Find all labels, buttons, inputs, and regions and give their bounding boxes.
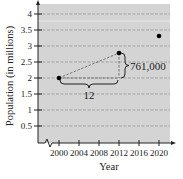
point-2000 — [57, 76, 62, 81]
svg-text:3: 3 — [28, 41, 33, 51]
x-axis-title: Year — [99, 161, 119, 172]
svg-text:2: 2 — [28, 73, 33, 83]
svg-text:0.5: 0.5 — [21, 121, 33, 131]
svg-text:2012: 2012 — [110, 148, 128, 158]
run-label: 12 — [84, 89, 95, 101]
svg-text:2016: 2016 — [130, 148, 149, 158]
svg-text:2020: 2020 — [150, 148, 169, 158]
svg-text:1: 1 — [28, 105, 33, 115]
svg-text:2000: 2000 — [50, 148, 69, 158]
svg-text:2.5: 2.5 — [21, 57, 33, 67]
y-tick-labels: 4 3.5 3 2.5 2 1.5 1 0.5 — [21, 9, 33, 131]
plot-area — [38, 4, 170, 143]
x-tick-labels: 2000 2004 2008 2012 2016 2020 — [50, 148, 169, 158]
point-2012 — [117, 51, 122, 56]
svg-text:2004: 2004 — [70, 148, 89, 158]
chart-canvas: 4 3.5 3 2.5 2 1.5 1 0.5 Population (in m… — [0, 0, 183, 179]
y-axis-title: Population (in millions) — [4, 25, 16, 126]
svg-text:1.5: 1.5 — [21, 89, 33, 99]
svg-text:4: 4 — [28, 9, 33, 19]
rise-label: 761,000 — [130, 60, 166, 72]
point-2020 — [157, 34, 162, 39]
y-axis-arrow-icon — [36, 0, 40, 5]
x-axis-arrow-icon — [171, 141, 176, 145]
svg-text:2008: 2008 — [90, 148, 109, 158]
svg-text:3.5: 3.5 — [21, 25, 33, 35]
